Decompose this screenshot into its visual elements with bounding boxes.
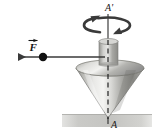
force-vector-label-group: F xyxy=(29,41,38,54)
axis-label-bottom: A xyxy=(110,119,118,130)
spinning-top-diagram: A' F xyxy=(0,0,154,137)
spinning-top-cone xyxy=(76,60,144,118)
force-label: F xyxy=(29,41,38,53)
force-application-point xyxy=(39,53,47,61)
axis-label-top: A' xyxy=(104,2,114,13)
spin-rotation-arrow xyxy=(84,16,130,35)
force-vector-arrow xyxy=(18,53,105,61)
physics-figure-container: A' F xyxy=(0,0,154,137)
